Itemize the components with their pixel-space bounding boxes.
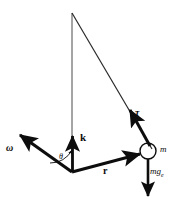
mg-label: mge [150,167,164,178]
r-label: r [103,166,107,176]
tau-vector [130,110,150,146]
m-label: m [160,145,167,154]
mg-label-main: mg [150,166,161,176]
mg-label-subscript: e [161,172,164,178]
theta-label: θ [59,153,63,161]
tau-label: τ [135,108,139,118]
omega-label: ω [6,143,13,153]
physics-diagram-figure: ω k θ τ r m mge [0,0,179,207]
omega-vector [20,135,72,172]
k-label: k [80,132,86,143]
